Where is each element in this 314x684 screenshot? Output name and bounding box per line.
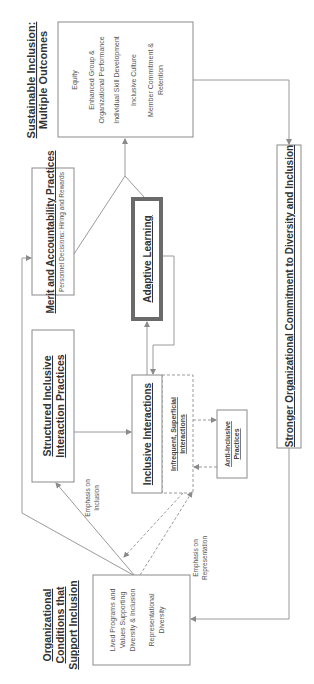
interactions-text: Inclusive Interactions xyxy=(142,382,153,485)
superficial-interactions-box xyxy=(162,375,193,493)
outcome-commitment-1: Member Commitment & xyxy=(147,43,154,117)
conditions-box xyxy=(93,575,190,665)
conditions-item2-line1: Representational xyxy=(148,593,156,646)
emphasis-rep-line1: Emphasis on xyxy=(192,539,200,577)
superficial-text: Infrequent, Superficial Interactions xyxy=(170,397,186,471)
merit-title: Merit and Accountability Practices xyxy=(45,150,56,313)
conditions-item1-line3: Diversity & Inclusion xyxy=(129,588,137,651)
anti-inclusive-box xyxy=(217,410,247,478)
commitment-text: Stronger Organizational Commitment to Di… xyxy=(284,145,295,447)
superficial-line1: Infrequent, Superficial xyxy=(170,397,178,471)
commitment-title: Stronger Organizational Commitment to Di… xyxy=(284,145,295,447)
outcome-equity: Equity xyxy=(71,70,79,90)
outcomes-heading: Sustainable Inclusion: Multiple Outcomes xyxy=(25,22,49,139)
conditions-title-1: Organizational xyxy=(41,588,53,661)
anti-line1: Anti-Inclusive xyxy=(224,421,231,467)
structured-box xyxy=(32,330,74,482)
connector-merit-to-outcomes xyxy=(74,139,125,254)
conditions-heading: Organizational Conditions that Support I… xyxy=(41,580,79,669)
emphasis-inclusion-line1: Emphasis on xyxy=(84,479,92,517)
conditions-item2-line2: Diversity xyxy=(158,606,166,633)
adaptive-title: Adaptive Learning xyxy=(142,215,153,302)
outcome-skill-development: Individual Skill Development xyxy=(113,36,121,124)
outcome-performance-2: Organizational Performance xyxy=(98,36,106,123)
structured-text: Structured Inclusive Interaction Practic… xyxy=(41,354,66,457)
inclusion-model-diagram: Sustainable Inclusion: Multiple Outcomes… xyxy=(0,0,314,684)
structured-title-1: Structured Inclusive xyxy=(41,355,53,456)
merit-text: Merit and Accountability Practices Perso… xyxy=(45,150,66,313)
outcome-commitment-2: Retention xyxy=(157,65,164,95)
diagram-canvas: Sustainable Inclusion: Multiple Outcomes… xyxy=(0,0,314,684)
structured-title-2: Interaction Practices xyxy=(54,354,66,457)
conditions-title-3: Support Inclusion xyxy=(67,580,79,669)
emphasis-representation-label: Emphasis on Representation xyxy=(192,536,209,580)
outcomes-box xyxy=(58,22,193,137)
conditions-item1-line1: Lived Programs and xyxy=(109,589,117,652)
merit-subtitle: Personnel Decisions: Hiring and Rewards xyxy=(58,171,66,292)
conditions-item1-line2: Values Supporting xyxy=(119,592,127,649)
connector-conditions-to-superficial xyxy=(140,492,192,575)
outcomes-subtitle: Multiple Outcomes xyxy=(37,31,49,129)
outcome-performance-1: Enhanced Group & xyxy=(88,50,96,110)
connector-adaptive-to-outcomes xyxy=(125,176,144,197)
connector-superficial-to-conditions xyxy=(124,493,183,557)
outcome-inclusive-culture: Inclusive Culture xyxy=(130,54,137,106)
emphasis-inclusion-line2: Inclusion xyxy=(93,485,100,511)
emphasis-inclusion-label: Emphasis on Inclusion xyxy=(84,479,100,517)
outcomes-title: Sustainable Inclusion: xyxy=(25,22,37,139)
conditions-title-2: Conditions that xyxy=(54,586,66,663)
superficial-line2: Interactions xyxy=(179,414,186,454)
adaptive-text: Adaptive Learning xyxy=(142,215,153,302)
emphasis-rep-line2: Representation xyxy=(201,536,209,580)
anti-line2: Practices xyxy=(233,428,240,459)
interactions-title: Inclusive Interactions xyxy=(142,382,153,485)
connector-outcomes-to-commitment xyxy=(193,80,289,144)
